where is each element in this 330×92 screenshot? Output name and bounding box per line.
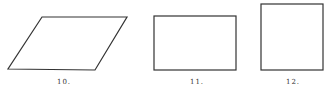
figure-label-11: 11. [190, 78, 204, 86]
figures-canvas [0, 0, 330, 92]
figure-label-10: 10. [57, 78, 71, 86]
figure-label-12: 12. [286, 78, 300, 86]
rectangle-figure-11 [154, 16, 236, 70]
parallelogram-figure-10 [8, 17, 127, 70]
square-figure-12 [261, 4, 323, 70]
